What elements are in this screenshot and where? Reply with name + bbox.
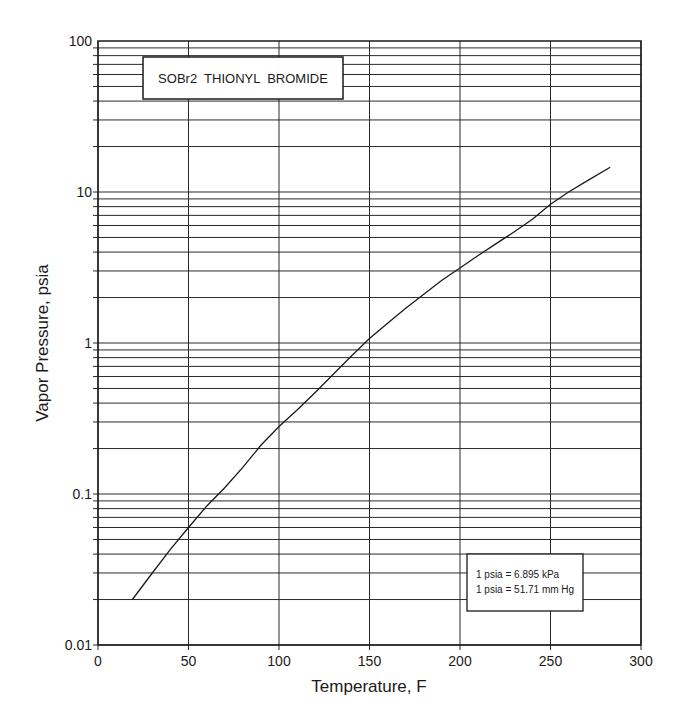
vapor-pressure-chart: SOBr2 THIONYL BROMIDE 1 psia = 6.895 kPa… bbox=[0, 0, 678, 725]
conversion-kpa: 1 psia = 6.895 kPa bbox=[476, 569, 560, 580]
y-tick-label: 10 bbox=[76, 184, 92, 200]
chart-title: SOBr2 THIONYL BROMIDE bbox=[158, 71, 328, 86]
x-tick-labels: 050100150200250300 bbox=[94, 653, 653, 669]
y-tick-label: 1 bbox=[84, 335, 92, 351]
x-tick-label: 50 bbox=[181, 653, 197, 669]
x-tick-label: 300 bbox=[629, 653, 653, 669]
y-tick-labels: 0.010.1110100 bbox=[65, 33, 92, 653]
title-box: SOBr2 THIONYL BROMIDE bbox=[143, 57, 343, 99]
x-tick-label: 200 bbox=[448, 653, 472, 669]
x-tick-label: 0 bbox=[94, 653, 102, 669]
x-tick-label: 250 bbox=[539, 653, 563, 669]
x-axis-title: Temperature, F bbox=[311, 677, 426, 696]
y-tick-label: 0.1 bbox=[73, 486, 93, 502]
y-tick-label: 100 bbox=[69, 33, 93, 49]
x-tick-label: 150 bbox=[358, 653, 382, 669]
y-axis-title: Vapor Pressure, psia bbox=[33, 264, 52, 422]
conversion-mmhg: 1 psia = 51.71 mm Hg bbox=[476, 584, 574, 595]
x-tick-label: 100 bbox=[267, 653, 291, 669]
vapor-pressure-curve bbox=[132, 167, 610, 599]
y-tick-label: 0.01 bbox=[65, 637, 92, 653]
conversion-legend-box: 1 psia = 6.895 kPa 1 psia = 51.71 mm Hg bbox=[467, 554, 583, 611]
